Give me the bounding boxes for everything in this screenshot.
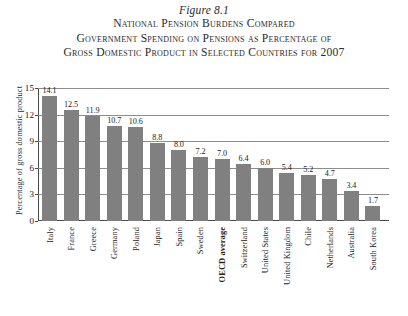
- category-label: Australia: [347, 227, 356, 259]
- figure-number: Figure 8.1: [0, 3, 408, 17]
- bar-slot: 8.0: [171, 88, 186, 221]
- bar[interactable]: [85, 116, 100, 222]
- bar[interactable]: [279, 173, 294, 221]
- category-label: United States: [261, 227, 270, 273]
- y-tick-label: 6: [29, 163, 34, 173]
- category-label-slot: Poland: [128, 225, 143, 315]
- y-tick-label: 3: [29, 189, 34, 199]
- category-label-slot: Netherlands: [322, 225, 337, 315]
- category-label: Greece: [88, 227, 97, 251]
- bar-slot: 11.9: [85, 88, 100, 221]
- bar-slot: 12.5: [64, 88, 79, 221]
- bar[interactable]: [171, 150, 186, 221]
- bar-slot: 4.7: [322, 88, 337, 221]
- bar[interactable]: [322, 179, 337, 221]
- bar-value-label: 10.6: [129, 117, 143, 126]
- category-label-slot: Germany: [107, 225, 122, 315]
- category-label: Sweden: [196, 227, 205, 254]
- category-label-slot: OECD average: [215, 225, 230, 315]
- bar[interactable]: [193, 157, 208, 221]
- y-tick-label: 9: [29, 136, 34, 146]
- bar[interactable]: [42, 96, 57, 221]
- bar-slot: 1.7: [365, 88, 380, 221]
- bar-slot: 8.8: [150, 88, 165, 221]
- bar-value-label: 8.8: [152, 133, 162, 142]
- bar-slot: 5.4: [279, 88, 294, 221]
- figure-title-block: Figure 8.1 National Pension Burdens Comp…: [0, 0, 408, 61]
- bar[interactable]: [107, 126, 122, 221]
- bar[interactable]: [365, 206, 380, 221]
- category-label: Italy: [45, 227, 54, 243]
- bar[interactable]: [258, 168, 273, 221]
- category-label-slot: South Korea: [365, 225, 380, 315]
- bar-slot: 6.4: [236, 88, 251, 221]
- y-tick-label: 0: [29, 216, 34, 226]
- category-label: South Korea: [368, 227, 377, 270]
- category-label: Spain: [174, 227, 183, 247]
- bar-value-label: 4.7: [325, 169, 335, 178]
- category-label-slot: United States: [258, 225, 273, 315]
- category-label-slot: Switzerland: [236, 225, 251, 315]
- category-label-slot: Italy: [42, 225, 57, 315]
- bar-value-label: 7.2: [195, 147, 205, 156]
- bar-value-label: 11.9: [86, 106, 100, 115]
- category-label: Germany: [110, 227, 119, 259]
- y-axis-title: Percentage of gross domestic product: [15, 76, 24, 226]
- category-label: France: [67, 227, 76, 250]
- bar[interactable]: [215, 159, 230, 221]
- bar[interactable]: [128, 127, 143, 221]
- bar-value-label: 1.7: [368, 196, 378, 205]
- bar-slot: 7.0: [215, 88, 230, 221]
- category-label-slot: Chile: [301, 225, 316, 315]
- bar-value-label: 12.5: [64, 100, 78, 109]
- bar-slot: 10.7: [107, 88, 122, 221]
- bar-value-label: 3.4: [346, 181, 356, 190]
- bar-slot: 5.2: [301, 88, 316, 221]
- bar-slot: 3.4: [344, 88, 359, 221]
- category-label: United Kingdom: [282, 227, 291, 285]
- bar-slot: 14.1: [42, 88, 57, 221]
- bar-value-label: 7.0: [217, 149, 227, 158]
- plot-area: 03691215 14.112.511.910.710.68.88.07.27.…: [38, 88, 389, 221]
- bar-slot: 7.2: [193, 88, 208, 221]
- bar[interactable]: [64, 110, 79, 221]
- category-label-slot: Greece: [85, 225, 100, 315]
- bar-slot: 10.6: [128, 88, 143, 221]
- category-label: Poland: [131, 227, 140, 251]
- category-label: Chile: [304, 227, 313, 246]
- title-line-3: Gross Domestic Product in Selected Count…: [0, 46, 408, 61]
- category-label: Switzerland: [239, 227, 248, 268]
- bar-value-label: 14.1: [43, 86, 57, 95]
- category-label-slot: United Kingdom: [279, 225, 294, 315]
- bar-value-label: 10.7: [107, 116, 121, 125]
- category-label: Netherlands: [325, 227, 334, 269]
- bar-value-label: 6.4: [239, 154, 249, 163]
- category-label: OECD average: [218, 227, 227, 282]
- y-tick-label: 15: [25, 83, 34, 93]
- category-label-slot: France: [64, 225, 79, 315]
- bar[interactable]: [150, 143, 165, 221]
- title-line-2: Government Spending on Pensions as Perce…: [0, 32, 408, 47]
- bar-value-label: 8.0: [174, 140, 184, 149]
- category-label: Japan: [153, 227, 162, 247]
- bar-value-label: 5.4: [282, 163, 292, 172]
- bar-slot: 6.0: [258, 88, 273, 221]
- category-label-slot: Australia: [344, 225, 359, 315]
- category-label-slot: Sweden: [193, 225, 208, 315]
- bar[interactable]: [301, 175, 316, 221]
- bar-value-label: 5.2: [303, 165, 313, 174]
- bars-group: 14.112.511.910.710.68.88.07.27.06.46.05.…: [38, 88, 389, 221]
- bar-value-label: 6.0: [260, 158, 270, 167]
- bar[interactable]: [236, 164, 251, 221]
- title-line-1: National Pension Burdens Compared: [0, 17, 408, 32]
- y-tick-mark: [35, 221, 38, 222]
- bar-chart: Percentage of gross domestic product 036…: [0, 78, 408, 316]
- category-axis-labels: ItalyFranceGreeceGermanyPolandJapanSpain…: [38, 225, 389, 315]
- y-tick-label: 12: [25, 110, 34, 120]
- bar[interactable]: [344, 191, 359, 221]
- category-label-slot: Spain: [171, 225, 186, 315]
- category-label-slot: Japan: [150, 225, 165, 315]
